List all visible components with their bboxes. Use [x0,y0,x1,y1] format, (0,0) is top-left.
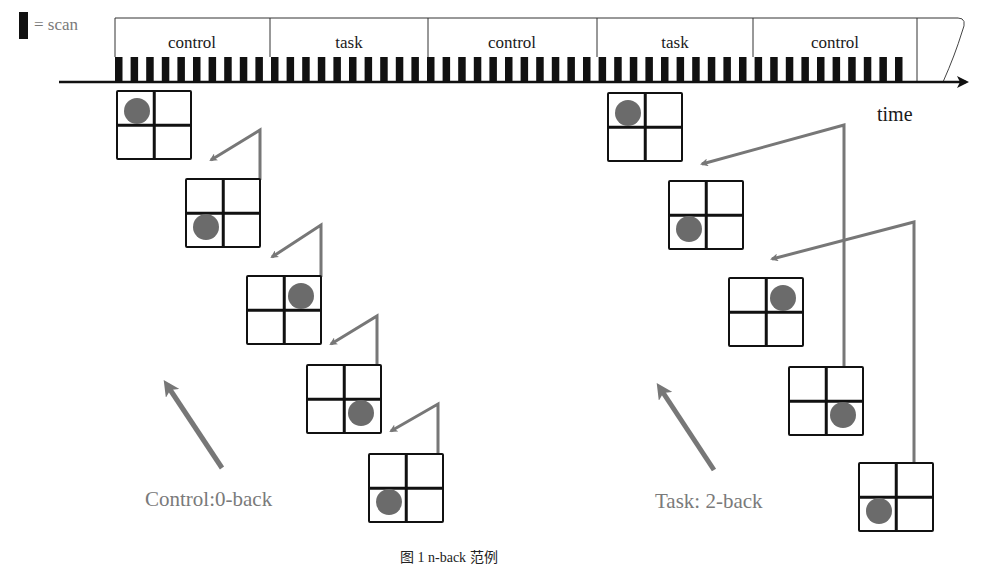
stimulus-dot [830,402,856,428]
stimulus-dot [866,498,892,524]
control-grid-3 [246,275,322,345]
task-grid-4 [788,366,864,436]
stimulus-dot [288,283,314,309]
scan-bars [115,57,903,82]
task-grid-3 [728,277,804,347]
segment-label-task-1: task [335,33,362,53]
stimulus-dot [124,98,150,124]
task-grid-2 [668,180,744,250]
stimulus-dot [676,216,702,242]
task-direction-arrow [660,388,714,470]
stimulus-dot [348,400,374,426]
task-grid-1 [607,92,683,162]
scan-legend-label: = scan [34,15,78,35]
stimulus-dot [770,285,796,311]
control-grid-5 [368,453,444,523]
control-condition-label: Control:0-back [145,487,272,512]
stimulus-dot [615,100,641,126]
scan-legend-icon [19,12,28,39]
segment-label-control-2: control [488,33,536,53]
segment-label-task-2: task [661,33,688,53]
control-direction-arrow [167,385,222,468]
segment-label-control-1: control [168,33,216,53]
control-grid-2 [185,178,261,248]
control-grid-1 [116,90,192,160]
task-condition-label: Task: 2-back [655,489,763,514]
control-grid-4 [306,364,382,434]
time-axis-label: time [877,103,913,126]
segment-label-control-3: control [811,33,859,53]
stimulus-dot [193,214,219,240]
task-grid-5 [858,462,934,532]
stimulus-dot [376,489,402,515]
figure-caption: 图 1 n-back 范例 [400,546,498,566]
